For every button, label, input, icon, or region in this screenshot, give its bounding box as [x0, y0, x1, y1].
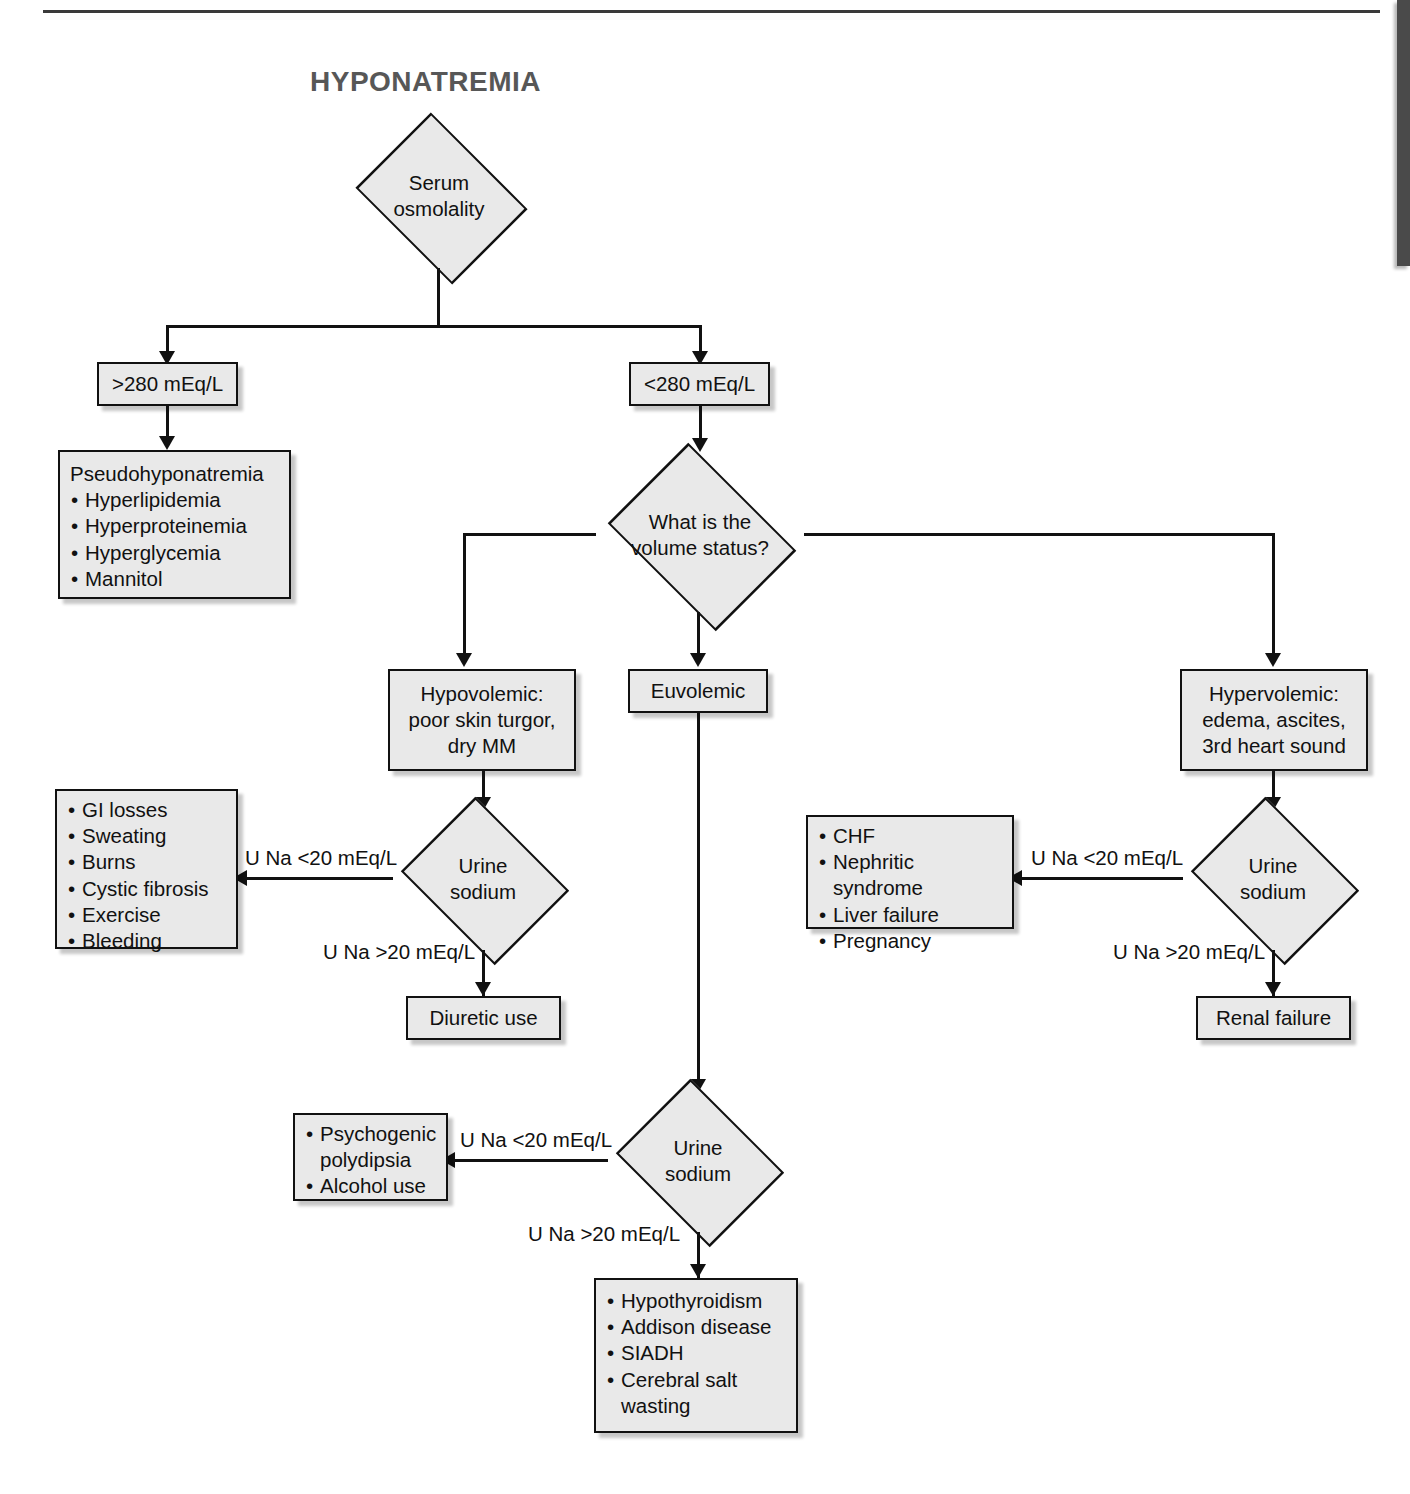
list-item: Alcohol use — [305, 1173, 436, 1199]
arrow-to-diuretic-use — [475, 982, 491, 996]
hypervolemic-causes-list: CHF Nephritic syndrome Liver failure Pre… — [818, 823, 1002, 954]
page-title: HYPONATREMIA — [310, 66, 541, 98]
node-label: >280 mEq/L — [105, 371, 230, 397]
node-volume-status: What is the volume status? — [594, 456, 806, 614]
list-item: GI losses — [67, 797, 226, 823]
list-item: Pregnancy — [818, 928, 1002, 954]
node-high-osmolality: >280 mEq/L — [97, 362, 238, 406]
edge-label-una-high-hypovolemic: U Na >20 mEq/L — [323, 940, 475, 964]
node-hypovolemic-causes: GI losses Sweating Burns Cystic fibrosis… — [55, 789, 238, 949]
list-item: Exercise — [67, 902, 226, 928]
hypovolemic-causes-list: GI losses Sweating Burns Cystic fibrosis… — [67, 797, 226, 954]
node-hypervolemic: Hypervolemic: edema, ascites, 3rd heart … — [1180, 669, 1368, 771]
node-pseudohyponatremia: Pseudohyponatremia Hyperlipidemia Hyperp… — [58, 450, 291, 599]
connector-euvolemic-to-urine — [697, 713, 700, 1091]
arrow-to-hypervolemic — [1265, 653, 1281, 667]
flowchart-page: HYPONATREMIA Serum osmolality >280 mEq/L… — [0, 0, 1410, 1494]
arrow-to-hypovolemic — [456, 653, 472, 667]
list-item: Sweating — [67, 823, 226, 849]
node-hypervolemic-causes: CHF Nephritic syndrome Liver failure Pre… — [806, 815, 1014, 929]
edge-label-una-low-euvolemic: U Na <20 mEq/L — [460, 1128, 612, 1152]
connector-volume-left-arm — [463, 533, 596, 536]
connector-osm-stem — [437, 268, 440, 328]
page-top-rule — [43, 10, 1380, 13]
list-item: Mannitol — [70, 566, 279, 592]
node-diuretic-use: Diuretic use — [406, 996, 561, 1040]
list-item: Addison disease — [606, 1314, 786, 1340]
node-label: Euvolemic — [636, 678, 760, 704]
edge-label-una-low-hypervolemic: U Na <20 mEq/L — [1031, 846, 1183, 870]
arrow-to-euvolemic-high-causes — [690, 1264, 706, 1278]
list-item: Hyperglycemia — [70, 540, 279, 566]
connector-osm-split-bar — [166, 325, 702, 328]
connector-high-osm-to-pseudo — [166, 406, 169, 438]
node-heading: Pseudohyponatremia — [70, 461, 279, 487]
list-item: Hypothyroidism — [606, 1288, 786, 1314]
node-urine-sodium-hypervolemic: Urine sodium — [1181, 806, 1365, 952]
list-item: Bleeding — [67, 928, 226, 954]
node-label: Hypovolemic: poor skin turgor, dry MM — [396, 681, 568, 760]
list-item: Cerebral salt wasting — [606, 1367, 786, 1419]
connector-volume-right-arm — [804, 533, 1275, 536]
edge-label-una-low-hypovolemic: U Na <20 mEq/L — [245, 846, 397, 870]
euvolemic-causes-list: Psychogenic polydipsia Alcohol use — [305, 1121, 436, 1200]
list-item: Liver failure — [818, 902, 1002, 928]
pseudohyponatremia-list: Hyperlipidemia Hyperproteinemia Hypergly… — [70, 487, 279, 592]
connector-osm-left-drop — [166, 325, 169, 353]
node-label: Urine sodium — [391, 806, 575, 952]
list-item: Nephritic syndrome — [818, 849, 1002, 901]
connector-osm-right-drop — [699, 325, 702, 353]
node-serum-osmolality: Serum osmolality — [344, 122, 534, 270]
node-label: Renal failure — [1204, 1005, 1343, 1031]
connector-hypovolemic-low-una — [245, 877, 393, 880]
list-item: CHF — [818, 823, 1002, 849]
connector-euvolemic-low-una — [453, 1159, 608, 1162]
node-urine-sodium-euvolemic: Urine sodium — [606, 1088, 790, 1234]
node-label: Diuretic use — [414, 1005, 553, 1031]
connector-low-osm-to-volume — [699, 406, 702, 440]
node-label: <280 mEq/L — [637, 371, 762, 397]
node-urine-sodium-hypovolemic: Urine sodium — [391, 806, 575, 952]
connector-volume-left-drop — [463, 533, 466, 655]
list-item: Psychogenic polydipsia — [305, 1121, 436, 1173]
list-item: Burns — [67, 849, 226, 875]
list-item: Hyperlipidemia — [70, 487, 279, 513]
node-label: Urine sodium — [606, 1088, 790, 1234]
euvolemic-high-causes-list: Hypothyroidism Addison disease SIADH Cer… — [606, 1288, 786, 1419]
node-label: Hypervolemic: edema, ascites, 3rd heart … — [1188, 681, 1360, 760]
arrow-to-pseudohyponatremia — [159, 436, 175, 450]
node-label: Urine sodium — [1181, 806, 1365, 952]
node-label: Serum osmolality — [344, 122, 534, 270]
page-edge-tab — [1397, 0, 1410, 266]
connector-volume-center-drop — [697, 612, 700, 655]
node-hypovolemic: Hypovolemic: poor skin turgor, dry MM — [388, 669, 576, 771]
connector-volume-right-drop — [1272, 533, 1275, 655]
list-item: Hyperproteinemia — [70, 513, 279, 539]
list-item: Cystic fibrosis — [67, 876, 226, 902]
list-item: SIADH — [606, 1340, 786, 1366]
arrow-to-euvolemic — [690, 653, 706, 667]
edge-label-una-high-hypervolemic: U Na >20 mEq/L — [1113, 940, 1265, 964]
edge-label-una-high-euvolemic: U Na >20 mEq/L — [528, 1222, 680, 1246]
connector-hypervolemic-low-una — [1020, 877, 1183, 880]
node-label: What is the volume status? — [594, 456, 806, 614]
arrow-to-renal-failure — [1265, 982, 1281, 996]
node-euvolemic-causes: Psychogenic polydipsia Alcohol use — [293, 1113, 448, 1201]
node-renal-failure: Renal failure — [1196, 996, 1351, 1040]
node-euvolemic-high-causes: Hypothyroidism Addison disease SIADH Cer… — [594, 1278, 798, 1433]
node-euvolemic: Euvolemic — [628, 669, 768, 713]
node-low-osmolality: <280 mEq/L — [629, 362, 770, 406]
